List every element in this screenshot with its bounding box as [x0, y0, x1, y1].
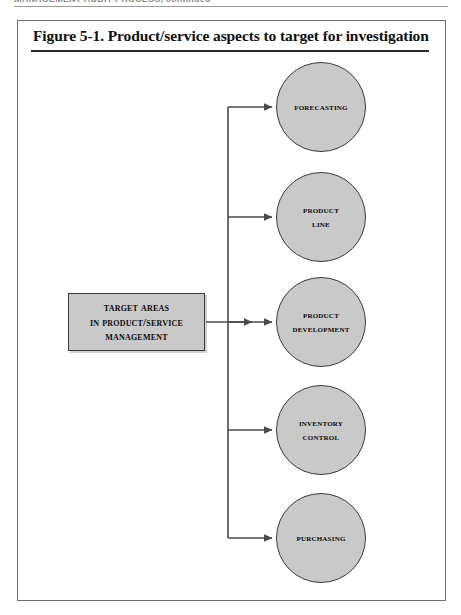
figure-title-rule [31, 50, 429, 52]
node-product-line-label: Product Line [297, 203, 345, 230]
node-product-line-line-2: Line [312, 218, 330, 229]
header-rule [14, 6, 448, 7]
node-inventory-control-line-2: Control [303, 431, 340, 442]
source-node-target-areas[interactable]: Target Areas in Product/Service Manageme… [68, 293, 205, 351]
figure-title: Figure 5-1. Product/service aspects to t… [33, 27, 433, 45]
source-node-line-3: Management [105, 330, 167, 342]
node-purchasing-label: Purchasing [290, 531, 351, 545]
node-inventory-control-label: Inventory Control [293, 416, 349, 443]
node-forecasting-label: Forecasting [288, 100, 354, 114]
node-forecasting[interactable]: Forecasting [276, 62, 366, 152]
node-inventory-control[interactable]: Inventory Control [276, 385, 366, 475]
node-product-development-line-1: Product [303, 309, 339, 320]
source-node-line-1: Target Areas [104, 301, 169, 313]
page-root: MANAGEMENT AUDIT PROCESS, continued Figu… [0, 0, 461, 615]
node-product-line[interactable]: Product Line [276, 172, 366, 262]
node-product-development[interactable]: Product Development [276, 277, 366, 367]
node-purchasing-line-1: Purchasing [296, 532, 345, 543]
node-inventory-control-line-1: Inventory [299, 417, 343, 428]
node-forecasting-line-1: Forecasting [294, 101, 348, 112]
node-product-development-line-2: Development [292, 323, 349, 334]
source-node-line-2: in Product/Service [90, 316, 183, 328]
source-node-label: Target Areas in Product/Service Manageme… [90, 300, 183, 344]
node-product-development-label: Product Development [286, 308, 355, 335]
running-header: MANAGEMENT AUDIT PROCESS, continued [14, 0, 314, 4]
node-purchasing[interactable]: Purchasing [276, 493, 366, 583]
node-product-line-line-1: Product [303, 204, 339, 215]
